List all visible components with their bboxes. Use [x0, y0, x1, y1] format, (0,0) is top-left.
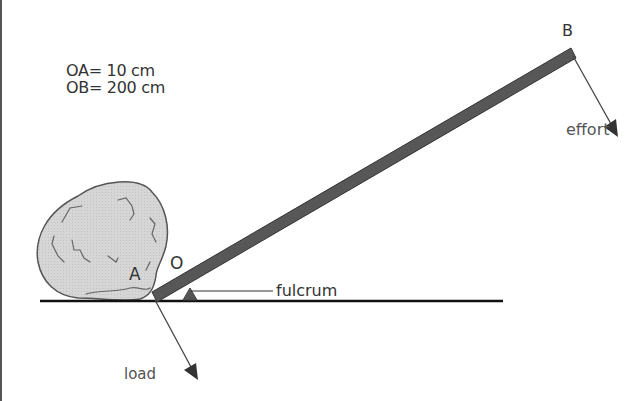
fulcrum-label: fulcrum	[276, 283, 337, 299]
point-o-label: O	[170, 255, 183, 272]
oa-length: OA= 10 cm	[66, 62, 165, 79]
effort-label: effort	[566, 122, 610, 138]
point-a-label: A	[129, 266, 141, 283]
given-measurements: OA= 10 cm OB= 200 cm	[66, 62, 165, 96]
load-arrow	[155, 300, 198, 380]
rock-load	[37, 182, 167, 300]
lever-diagram: OA= 10 cm OB= 200 cm B effort A O fulcru…	[0, 0, 642, 401]
ob-length: OB= 200 cm	[66, 79, 165, 96]
fulcrum-triangle	[183, 288, 197, 300]
point-b-label: B	[562, 23, 573, 39]
load-label: load	[124, 367, 156, 382]
lever-bar	[152, 48, 576, 302]
